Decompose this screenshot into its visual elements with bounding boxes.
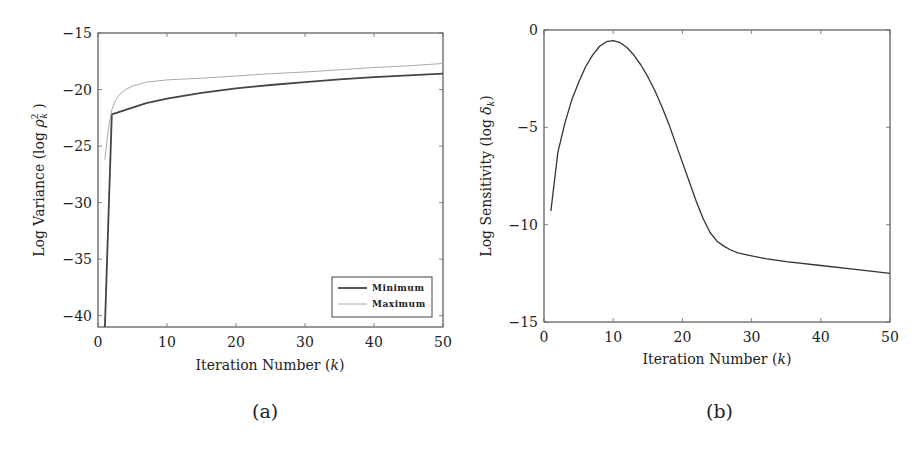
plot-b-lines (551, 41, 890, 274)
x-tick-label: 20 (227, 334, 245, 350)
y-tick-label: −15 (62, 25, 92, 41)
plot-log-sensitivity: 010203040500−5−10−15 Iteration Number (k… (478, 22, 899, 367)
x-tick-label: 50 (434, 334, 452, 350)
x-tick-label: 0 (540, 329, 549, 345)
x-tick-label: 30 (296, 334, 314, 350)
y-tick-label: −35 (62, 251, 92, 267)
y-axis-label-b: Log Sensitivity (log δk) (478, 95, 496, 256)
x-tick-label: 30 (743, 329, 761, 345)
plot-log-variance: 01020304050−15−20−25−30−35−40 Minimum Ma… (30, 25, 452, 373)
y-tick-label: −10 (508, 217, 538, 233)
x-tick-label: 10 (604, 329, 622, 345)
x-axis-label-a: Iteration Number (k) (196, 357, 345, 373)
legend: Minimum Maximum (332, 277, 432, 317)
y-tick-label: −30 (62, 195, 92, 211)
x-tick-label: 40 (812, 329, 830, 345)
y-tick-label: 0 (529, 22, 538, 38)
y-tick-label: −40 (62, 308, 92, 324)
x-tick-label: 0 (94, 334, 103, 350)
y-tick-label: −20 (62, 82, 92, 98)
x-tick-label: 10 (158, 334, 176, 350)
series-line-sensitivity (551, 41, 890, 274)
y-tick-label: −15 (508, 314, 538, 330)
series-line-maximum (105, 64, 443, 160)
x-axis-label-b: Iteration Number (k) (643, 351, 792, 367)
caption-b: (b) (706, 400, 733, 422)
legend-label-maximum: Maximum (372, 299, 426, 309)
legend-label-minimum: Minimum (372, 283, 424, 293)
y-axis-label-a: Log Variance (log ρ2k ) (30, 103, 49, 257)
y-tick-label: −25 (62, 138, 92, 154)
y-tick-label: −5 (517, 119, 538, 135)
x-tick-label: 40 (365, 334, 383, 350)
figure: 01020304050−15−20−25−30−35−40 Minimum Ma… (0, 0, 921, 452)
plot-b-frame (544, 30, 890, 322)
x-tick-label: 20 (673, 329, 691, 345)
x-tick-label: 50 (881, 329, 899, 345)
plot-b-ticks: 010203040500−5−10−15 (508, 22, 898, 345)
caption-a: (a) (252, 400, 278, 422)
